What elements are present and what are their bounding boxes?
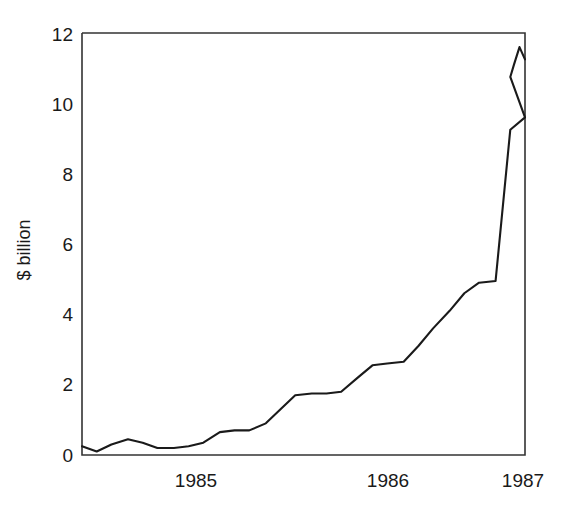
data-series-line [82,47,525,451]
y-tick-label-2: 2 [62,374,73,395]
line-chart-svg: 12 10 8 6 4 2 0 $ billion 1985 1986 1987 [0,0,568,510]
y-tick-label-6: 6 [62,234,73,255]
y-tick-label-4: 4 [62,304,73,325]
y-tick-label-8: 8 [62,164,73,185]
y-axis-title: $ billion [14,219,34,280]
chart-figure: 12 10 8 6 4 2 0 $ billion 1985 1986 1987 [0,0,568,510]
y-tick-label-0: 0 [62,445,73,466]
x-axis-tick-labels: 1985 1986 1987 [175,470,544,491]
x-tick-label-1985: 1985 [175,470,217,491]
y-tick-label-10: 10 [52,94,73,115]
x-tick-label-1986: 1986 [367,470,409,491]
y-tick-label-12: 12 [52,24,73,45]
x-tick-label-1987: 1987 [502,470,544,491]
plot-frame [82,33,525,455]
y-axis-tick-labels: 12 10 8 6 4 2 0 [52,24,74,466]
